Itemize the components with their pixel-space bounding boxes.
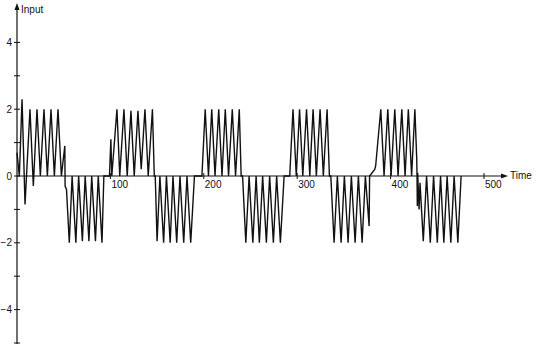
x-tick-label: 200 <box>205 179 222 190</box>
x-axis-title: Time <box>510 170 532 181</box>
x-axis-arrow-icon <box>501 174 508 179</box>
y-axis-title: Input <box>21 4 43 15</box>
x-tick-label: 300 <box>298 179 315 190</box>
x-tick-label: 500 <box>485 179 502 190</box>
y-tick-label: 2 <box>6 104 12 115</box>
axes <box>15 3 509 344</box>
y-axis-arrow-icon <box>15 3 20 10</box>
y-tick-label: −2 <box>1 237 13 248</box>
y-tick-label: 0 <box>6 171 12 182</box>
y-tick-label: −4 <box>1 304 13 315</box>
x-tick-label: 400 <box>392 179 409 190</box>
input-signal-line <box>17 99 461 243</box>
y-tick-label: 4 <box>6 37 12 48</box>
chart: −4−2024100200300400500 Input Time <box>0 0 537 348</box>
x-tick-label: 100 <box>111 179 128 190</box>
